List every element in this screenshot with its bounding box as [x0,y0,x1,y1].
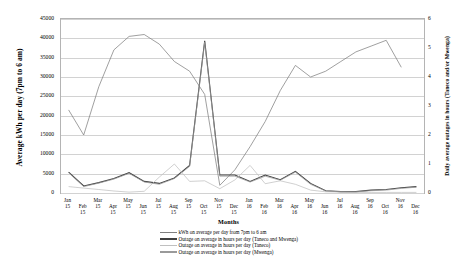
legend-swatch-icon [160,245,177,246]
x-tick-label: Dec16 [402,203,428,216]
y-tick-label-left: 45000 [8,15,54,21]
y-tick-label-left: 10000 [8,150,54,156]
y-tick-label-right: 5 [428,44,450,50]
chart-legend: kWh on average per day from 7pm to 6 amO… [160,229,298,255]
gridline [61,193,424,194]
y-tick-label-left: 35000 [8,54,54,60]
series-lines [61,19,424,193]
y-tick-label-left: 0 [8,189,54,195]
legend-label: kWh on average per day from 7pm to 6 am [179,229,267,235]
series-line-3 [69,42,417,192]
legend-swatch-icon [160,238,177,240]
y-tick-label-left: 30000 [8,73,54,79]
legend-item[interactable]: Outage on average in hours per day (Tane… [160,236,298,243]
x-axis-title: Months [0,218,457,225]
plot-area [60,18,425,194]
legend-swatch-icon [160,232,177,233]
y-tick-label-left: 15000 [8,131,54,137]
legend-label: Outage on average in hours per day (Tane… [179,242,271,248]
y-tick-label-left: 40000 [8,34,54,40]
legend-item[interactable]: Outage on average in hours per day (Tane… [160,242,298,249]
y-tick-label-right: 0 [428,189,450,195]
y-tick-label-right: 4 [428,73,450,79]
legend-swatch-icon [160,251,177,252]
y-tick-label-right: 3 [428,102,450,108]
y-tick-label-left: 20000 [8,112,54,118]
series-line-1 [69,41,417,192]
legend-item[interactable]: kWh on average per day from 7pm to 6 am [160,229,298,236]
y-axis-left-title: Average kWh per day (7pm to 6 am) [15,28,24,188]
y-tick-label-right: 1 [428,160,450,166]
legend-label: Outage on average in hours per day (Tane… [179,236,298,242]
y-tick-label-right: 2 [428,131,450,137]
series-line-0 [69,35,402,186]
legend-label: Outage on average in hours per day (Mwen… [179,249,274,255]
y-tick-label-left: 25000 [8,92,54,98]
legend-item[interactable]: Outage on average in hours per day (Mwen… [160,249,298,256]
y-tick-label-right: 6 [428,15,450,21]
y-tick-label-left: 5000 [8,170,54,176]
chart-container: Average kWh per day (7pm to 6 am) Daily … [0,0,457,268]
